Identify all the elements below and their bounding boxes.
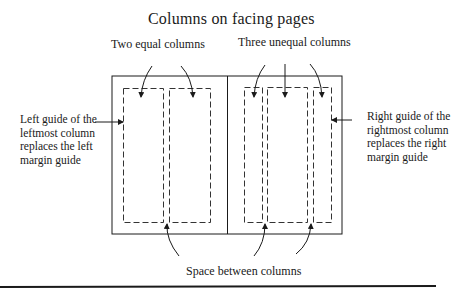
left-page-columns [124, 89, 211, 223]
right-page-columns [245, 88, 332, 223]
right-page-column-3 [314, 88, 332, 223]
bottom-rule [0, 286, 436, 287]
arrow-space-right-page-2 [296, 224, 311, 254]
right-page-column-1 [245, 88, 263, 223]
left-page-column-1 [124, 89, 164, 223]
space-between-arrows [167, 224, 311, 256]
arrow-two-col-2 [181, 66, 193, 97]
arrow-space-right-page-1 [254, 224, 265, 256]
column-arrows-top [141, 64, 322, 97]
arrow-three-col-3 [310, 64, 322, 97]
arrow-three-col-1 [254, 65, 265, 97]
arrow-two-col-1 [141, 66, 152, 97]
right-page-column-2 [268, 88, 308, 223]
facing-pages-diagram [0, 0, 455, 293]
left-page-column-2 [170, 89, 211, 223]
arrow-space-left-page [167, 224, 179, 256]
